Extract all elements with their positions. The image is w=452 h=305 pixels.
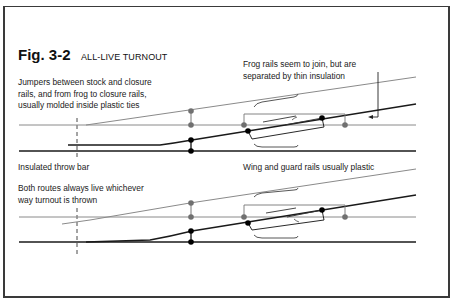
- jumper-dot-black: [188, 137, 194, 143]
- frog-dot-gray: [342, 122, 348, 128]
- guard-rail-end: [294, 219, 299, 222]
- jumper-dot-gray: [188, 108, 194, 114]
- frog-point-rail: [263, 116, 296, 122]
- bottom-turnout-diagram: [19, 169, 416, 255]
- frog-point-rail: [285, 118, 322, 125]
- closure-rail-black: [86, 195, 416, 242]
- frog-point-rail: [287, 210, 322, 217]
- arrowhead-icon: [368, 115, 373, 119]
- turnout-diagrams: [0, 0, 452, 305]
- jumper-dot-gray: [188, 122, 194, 128]
- wing-rail: [254, 94, 298, 107]
- frog-dot-black: [245, 128, 251, 134]
- diverging-rail-gray: [62, 169, 416, 224]
- frog-dot-black: [319, 207, 325, 213]
- guard-rail: [254, 235, 298, 238]
- frog-point-rail: [266, 208, 296, 213]
- frog-dot-gray: [342, 214, 348, 220]
- diverging-rail-gray: [86, 77, 416, 125]
- frog-dot-black: [245, 220, 251, 226]
- frog-dot-gray: [241, 122, 247, 128]
- jumper-dot-black: [188, 148, 194, 154]
- guard-rail: [254, 144, 298, 147]
- frog-dot-gray: [241, 214, 247, 220]
- jumper-dot-black: [188, 228, 194, 234]
- jumper-dot-gray: [188, 200, 194, 206]
- jumper-dot-black: [188, 239, 194, 245]
- jumper-dot-gray: [188, 214, 194, 220]
- wing-rail-end: [292, 117, 297, 120]
- frog-dot-black: [319, 115, 325, 121]
- top-turnout-diagram: [19, 72, 416, 160]
